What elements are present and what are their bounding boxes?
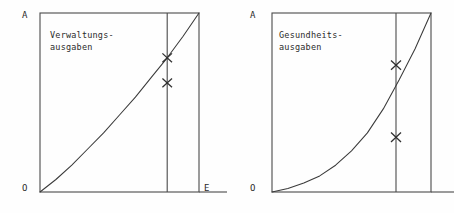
origin-label: O <box>22 184 27 193</box>
origin-label: O <box>250 184 255 193</box>
chart-verwaltungsausgaben: A O E Verwaltungs- ausgaben <box>0 0 227 213</box>
chart-title-gesundheitsausgaben: Gesundheits- ausgaben <box>279 29 343 54</box>
x-axis-label: E <box>204 184 209 193</box>
figure-canvas: A O E Verwaltungs- ausgaben <box>0 0 454 213</box>
y-axis-label: A <box>22 11 27 20</box>
chart-gesundheitsausgaben: A O Gesundheits- ausgaben <box>227 0 454 213</box>
y-axis-label: A <box>250 11 255 20</box>
chart-title-verwaltungsausgaben: Verwaltungs- ausgaben <box>50 29 114 54</box>
